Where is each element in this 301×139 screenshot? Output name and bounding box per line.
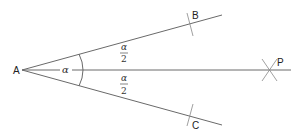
angle-alpha-label: α <box>62 64 69 75</box>
half-angle-upper-numerator: α <box>121 42 127 52</box>
half-angle-upper-denominator: 2 <box>121 54 127 64</box>
half-angle-lower-numerator: α <box>121 73 127 83</box>
point-label-c: C <box>192 120 199 131</box>
point-label-a: A <box>13 65 20 76</box>
half-angle-lower-denominator: 2 <box>121 86 127 96</box>
bisector-diagram: A B C P α α 2 α 2 <box>0 0 301 139</box>
point-label-b: B <box>192 10 199 21</box>
point-label-p: P <box>277 57 284 68</box>
